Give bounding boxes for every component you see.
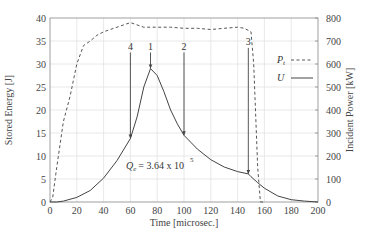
x-tick-label: 40 bbox=[99, 205, 109, 216]
marker-label-4: 4 bbox=[128, 41, 133, 52]
y-tick-label: 25 bbox=[36, 82, 46, 93]
marker-label-2: 2 bbox=[182, 41, 187, 52]
y-tick-label: 30 bbox=[36, 59, 46, 70]
event-markers: 4123 bbox=[128, 36, 251, 174]
y-right-tick-label: 500 bbox=[326, 82, 341, 93]
y-right-tick-label: 200 bbox=[326, 151, 341, 162]
y-tick-label: 0 bbox=[41, 197, 46, 208]
y-right-tick-label: 700 bbox=[326, 36, 341, 47]
y-right-tick-label: 600 bbox=[326, 59, 341, 70]
y-right-tick-label: 0 bbox=[326, 197, 331, 208]
y-right-tick-label: 800 bbox=[326, 13, 341, 24]
x-tick-label: 120 bbox=[203, 205, 218, 216]
x-axis-ticks: 020406080100120140160180200 bbox=[48, 205, 326, 216]
x-tick-label: 140 bbox=[230, 205, 245, 216]
x-tick-label: 0 bbox=[48, 205, 53, 216]
legend-label-pt: Pt bbox=[276, 54, 286, 67]
x-tick-label: 200 bbox=[311, 205, 326, 216]
y-tick-label: 20 bbox=[36, 105, 46, 116]
chart: 020406080100120140160180200 051015202530… bbox=[0, 0, 365, 238]
y-tick-label: 40 bbox=[36, 13, 46, 24]
x-tick-label: 180 bbox=[284, 205, 299, 216]
legend: Pt U bbox=[276, 54, 313, 83]
y-axis-left-ticks: 0510152025303540 bbox=[36, 13, 46, 208]
legend-label-u: U bbox=[277, 72, 285, 83]
y-axis-left-label: Stored Energy [J] bbox=[3, 75, 14, 145]
y-right-tick-label: 100 bbox=[326, 174, 341, 185]
y-tick-label: 10 bbox=[36, 151, 46, 162]
y-tick-label: 15 bbox=[36, 128, 46, 139]
marker-label-3: 3 bbox=[246, 36, 251, 47]
x-tick-label: 160 bbox=[257, 205, 272, 216]
y-tick-label: 5 bbox=[41, 174, 46, 185]
marker-label-1: 1 bbox=[148, 41, 153, 52]
x-tick-label: 80 bbox=[152, 205, 162, 216]
y-axis-right-ticks: 0100200300400500600700800 bbox=[315, 13, 341, 208]
x-tick-label: 60 bbox=[125, 205, 135, 216]
y-right-tick-label: 400 bbox=[326, 105, 341, 116]
y-right-tick-label: 300 bbox=[326, 128, 341, 139]
marker-arrow-icon bbox=[129, 135, 133, 139]
x-tick-label: 20 bbox=[72, 205, 82, 216]
x-axis-label: Time [microsec.] bbox=[150, 217, 219, 228]
y-axis-right-label: Incident Power [kW] bbox=[344, 68, 355, 152]
x-tick-label: 100 bbox=[177, 205, 192, 216]
y-tick-label: 35 bbox=[36, 36, 46, 47]
marker-arrow-icon bbox=[149, 65, 153, 69]
